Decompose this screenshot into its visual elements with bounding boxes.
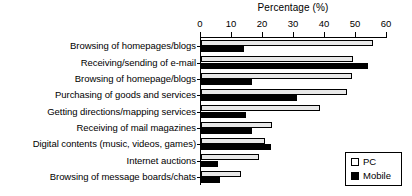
bar-pc: [201, 56, 353, 62]
category-label: Digital contents (music, videos, games): [0, 138, 196, 149]
chart-legend: PC Mobile: [345, 152, 402, 186]
x-axis-tick-label: 40: [319, 18, 330, 29]
category-tick: [197, 46, 200, 47]
category-label: Browsing of homepage/blogs: [0, 73, 196, 84]
bar-mobile: [201, 161, 218, 167]
category-label: Internet auctions: [0, 155, 196, 166]
legend-label-mobile: Mobile: [363, 171, 391, 181]
legend-label-pc: PC: [363, 157, 376, 167]
x-axis-tick: [324, 32, 325, 38]
x-axis-tick-label: 0: [197, 18, 202, 29]
x-axis-tick: [262, 32, 263, 38]
x-axis-tick: [231, 32, 232, 38]
pc-swatch-icon: [351, 158, 359, 166]
category-tick: [197, 63, 200, 64]
x-axis-tick-label: 20: [257, 18, 268, 29]
bar-pc: [201, 89, 347, 95]
bar-pc: [201, 122, 272, 128]
bar-mobile: [201, 177, 220, 183]
category-label: Browsing of homepages/blogs: [0, 40, 196, 51]
bar-pc: [201, 105, 320, 111]
bar-pc: [201, 171, 241, 177]
legend-item-mobile: Mobile: [351, 171, 391, 181]
bar-mobile: [201, 144, 271, 150]
x-axis-tick: [386, 32, 387, 38]
bar-mobile: [201, 112, 246, 118]
x-axis-tick: [293, 32, 294, 38]
x-axis-tick: [200, 32, 201, 38]
category-tick: [197, 95, 200, 96]
bar-mobile: [201, 95, 297, 101]
category-tick: [197, 128, 200, 129]
bar-pc: [201, 138, 265, 144]
category-tick: [197, 161, 200, 162]
category-label: Getting directions/mapping services: [0, 106, 196, 117]
category-label: Receiving/sending of e-mail: [0, 57, 196, 68]
category-tick: [197, 177, 200, 178]
bar-pc: [201, 154, 259, 160]
category-tick: [197, 79, 200, 80]
category-label: Browsing of message boards/chats: [0, 171, 196, 182]
legend-item-pc: PC: [351, 157, 376, 167]
x-axis-tick-label: 50: [350, 18, 361, 29]
bar-mobile: [201, 46, 244, 52]
bar-mobile: [201, 79, 252, 85]
mobile-swatch-icon: [351, 172, 359, 180]
x-axis-tick-label: 60: [381, 18, 392, 29]
category-label: Receiving of mail magazines: [0, 122, 196, 133]
chart-axis-title: Percentage (%): [200, 2, 386, 13]
category-tick: [197, 144, 200, 145]
bar-pc: [201, 40, 373, 46]
x-axis-tick-label: 10: [226, 18, 237, 29]
bar-chart: Percentage (%) 0102030405060 Browsing of…: [0, 0, 412, 196]
x-axis-tick-label: 30: [288, 18, 299, 29]
category-tick: [197, 112, 200, 113]
bar-mobile: [201, 128, 252, 134]
bar-pc: [201, 73, 352, 79]
category-label: Purchasing of goods and services: [0, 89, 196, 100]
x-axis-tick: [355, 32, 356, 38]
bar-mobile: [201, 63, 368, 69]
